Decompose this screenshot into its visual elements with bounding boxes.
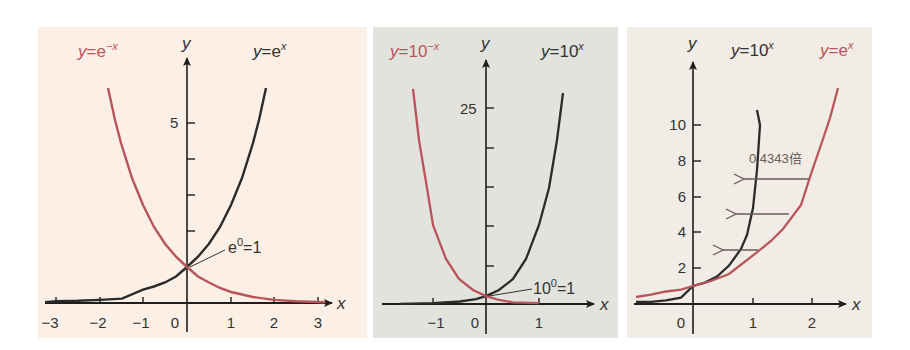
panel3-right-exp: x (847, 39, 854, 51)
panel3-x-tick: 2 (808, 314, 816, 331)
svg-text:y=ex: y=ex (819, 39, 854, 60)
panel3-left-eq: =10 (740, 41, 769, 60)
panel3-y-axis-label: y (687, 34, 698, 53)
panel3-y-tick: 8 (678, 152, 686, 169)
panel3-y-tick: 2 (678, 259, 686, 276)
svg-text:y=10x: y=10x (730, 39, 774, 60)
panel3-x-tick: 0 (677, 314, 685, 331)
panel3-left-exp: x (767, 39, 774, 51)
panel3-annotation: 0.4343倍 (749, 151, 802, 166)
panel3-x-tick: 1 (749, 314, 757, 331)
panel3-y-tick: 6 (678, 188, 686, 205)
panel3-y-tick: 10 (669, 116, 686, 133)
panel3-x-axis-label: x (851, 295, 861, 314)
panel3-right-eq: =e (829, 41, 848, 60)
panel3-y-tick: 4 (678, 223, 686, 240)
